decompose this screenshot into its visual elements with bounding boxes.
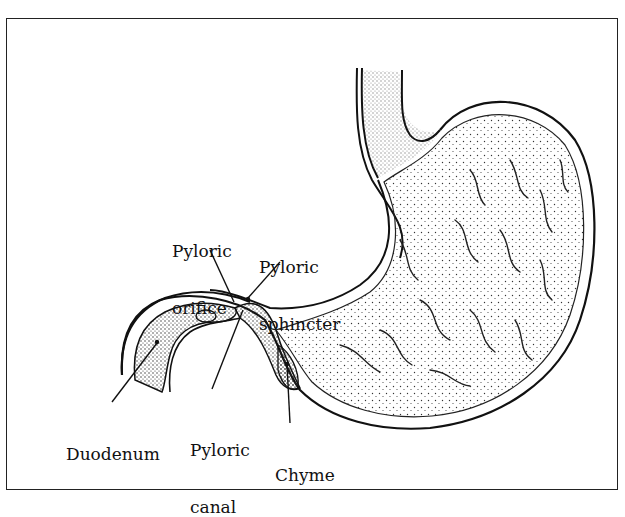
label-duodenum: Duodenum [66,407,160,483]
label-pyloric-orifice: Pyloric orifice [172,204,232,337]
label-chyme: Chyme [275,428,335,504]
label-pyloric-canal: Pyloric canal [190,403,250,517]
label-pyloric-sphincter: Pyloric sphincter [259,220,340,353]
